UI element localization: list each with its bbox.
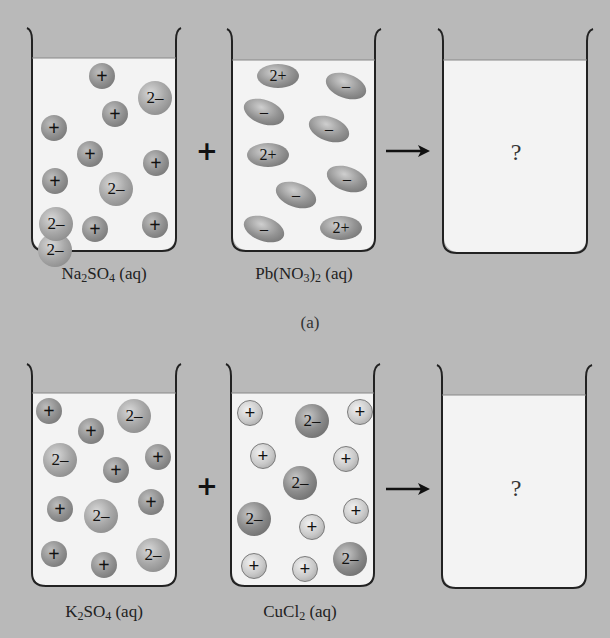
question-mark: ?: [511, 475, 522, 502]
beaker-outline-icon: [0, 0, 610, 638]
label-k2so4: K2SO4 (aq): [65, 602, 143, 622]
label-cucl2: CuCl2 (aq): [263, 602, 337, 622]
